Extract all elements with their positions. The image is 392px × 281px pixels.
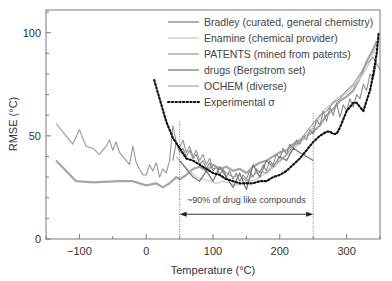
legend-item: Enamine (chemical provider) (168, 32, 338, 44)
legend-label: Experimental σ (204, 96, 275, 108)
legend-item: OCHEM (diverse) (168, 80, 287, 92)
range-annotation-label: ~90% of drug like compounds (187, 195, 306, 205)
x-tick-label: 300 (337, 245, 355, 257)
y-tick-label: 50 (29, 130, 41, 142)
rmse-vs-temperature-chart: ~90% of drug like compounds −10001002003… (0, 0, 392, 281)
legend-item: Bradley (curated, general chemistry) (168, 16, 373, 28)
legend-label: drugs (Bergstrom set) (204, 64, 306, 76)
x-tick-label: −100 (67, 245, 92, 257)
series-line-4 (56, 58, 380, 182)
y-tick-label: 0 (35, 233, 41, 245)
x-tick-label: 200 (271, 245, 289, 257)
arrow-right-icon (306, 212, 313, 217)
y-tick-label: 100 (23, 27, 41, 39)
x-tick-label: 100 (204, 245, 222, 257)
x-tick-label: 0 (143, 245, 149, 257)
arrow-left-icon (180, 212, 187, 217)
y-axis-title: RMSE (°C) (7, 97, 19, 152)
legend-label: Bradley (curated, general chemistry) (204, 16, 373, 28)
legend-item: Experimental σ (168, 96, 275, 108)
annotation-layer: ~90% of drug like compounds (180, 113, 314, 239)
legend-item: PATENTS (mined from patents) (168, 48, 351, 60)
x-axis-title: Temperature (°C) (171, 264, 255, 276)
legend-label: PATENTS (mined from patents) (204, 48, 351, 60)
legend-item: drugs (Bergstrom set) (168, 64, 306, 76)
legend-label: OCHEM (diverse) (204, 80, 287, 92)
legend: Bradley (curated, general chemistry)Enam… (168, 16, 373, 108)
legend-label: Enamine (chemical provider) (204, 32, 338, 44)
